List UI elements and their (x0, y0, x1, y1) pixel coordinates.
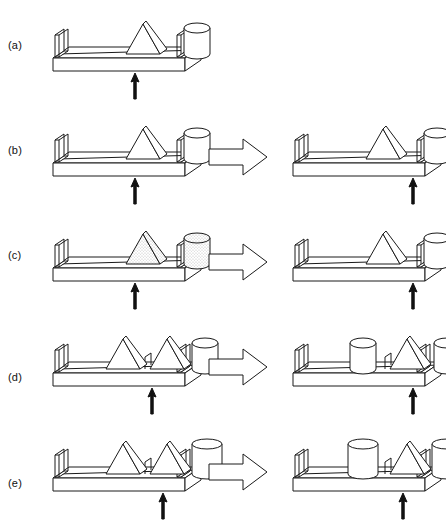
row-label-d: (d) (8, 372, 22, 383)
panel-e-initial (45, 420, 205, 524)
diagram-row-c: (c) (0, 210, 446, 315)
figure-canvas: (a)(b)(c)(d)(e) (0, 0, 446, 524)
transform-arrow-icon (205, 315, 285, 420)
diagram-row-a: (a) (0, 0, 446, 105)
transform-arrow-icon (205, 420, 285, 524)
diagram-row-b: (b) (0, 105, 446, 210)
panel-d-result (285, 315, 445, 420)
panel-e-result (285, 420, 445, 524)
panel-b-initial (45, 105, 205, 210)
row-label-c: (c) (8, 250, 21, 261)
transform-arrow-icon (205, 105, 285, 210)
row-label-e: (e) (8, 478, 22, 489)
panel-c-initial (45, 210, 205, 315)
panel-d-initial (45, 315, 205, 420)
transform-arrow-icon (205, 210, 285, 315)
row-label-b: (b) (8, 145, 22, 156)
panel-c-result (285, 210, 445, 315)
panel-b-result (285, 105, 445, 210)
panel-a-initial (45, 0, 205, 105)
diagram-row-e: (e) (0, 420, 446, 524)
diagram-row-d: (d) (0, 315, 446, 420)
row-label-a: (a) (8, 40, 22, 51)
